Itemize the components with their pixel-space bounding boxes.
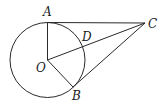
label-a: A bbox=[42, 5, 52, 19]
label-c: C bbox=[148, 17, 157, 31]
geometry-diagram: A C D O B bbox=[0, 0, 160, 104]
segment-oc bbox=[48, 23, 146, 60]
label-o: O bbox=[36, 61, 46, 75]
segment-ac bbox=[48, 23, 146, 24]
label-b: B bbox=[71, 89, 81, 103]
segment-ob bbox=[48, 60, 74, 87]
label-d: D bbox=[81, 30, 92, 44]
